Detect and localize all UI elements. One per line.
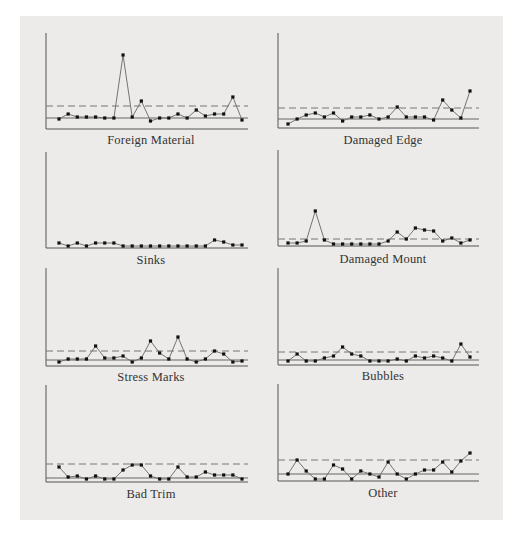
data-point bbox=[94, 474, 97, 477]
data-point bbox=[121, 468, 124, 471]
data-point bbox=[314, 111, 317, 114]
data-point bbox=[204, 357, 207, 360]
data-point bbox=[341, 467, 344, 470]
data-point bbox=[387, 460, 390, 463]
data-point bbox=[94, 344, 97, 347]
data-point bbox=[377, 117, 380, 120]
data-point bbox=[204, 244, 207, 247]
data-point bbox=[468, 355, 471, 358]
data-point bbox=[296, 352, 299, 355]
data-point bbox=[423, 468, 426, 471]
data-point bbox=[204, 114, 207, 117]
data-point bbox=[213, 349, 216, 352]
data-point bbox=[441, 356, 444, 359]
data-line bbox=[288, 453, 470, 479]
data-point bbox=[414, 354, 417, 357]
data-point bbox=[450, 359, 453, 362]
data-point bbox=[387, 115, 390, 118]
data-point bbox=[222, 473, 225, 476]
data-point bbox=[459, 116, 462, 119]
data-point bbox=[396, 105, 399, 108]
data-point bbox=[140, 99, 143, 102]
data-point bbox=[305, 239, 308, 242]
data-point bbox=[359, 469, 362, 472]
data-point bbox=[332, 111, 335, 114]
data-point bbox=[423, 228, 426, 231]
data-point bbox=[450, 236, 453, 239]
data-point bbox=[305, 469, 308, 472]
data-point bbox=[131, 244, 134, 247]
data-point bbox=[314, 359, 317, 362]
data-point bbox=[85, 357, 88, 360]
data-point bbox=[296, 117, 299, 120]
chart-title-foreign-material: Foreign Material bbox=[51, 133, 251, 148]
data-point bbox=[76, 241, 79, 244]
data-point bbox=[121, 354, 124, 357]
data-point bbox=[176, 244, 179, 247]
data-point bbox=[350, 477, 353, 480]
data-point bbox=[332, 242, 335, 245]
data-point bbox=[240, 359, 243, 362]
data-point bbox=[57, 117, 60, 120]
data-point bbox=[231, 95, 234, 98]
data-point bbox=[396, 357, 399, 360]
chart-title-bad-trim: Bad Trim bbox=[51, 487, 251, 502]
data-point bbox=[305, 359, 308, 362]
data-point bbox=[405, 237, 408, 240]
chart-stress-marks bbox=[46, 268, 248, 366]
data-point bbox=[195, 244, 198, 247]
data-point bbox=[186, 357, 189, 360]
data-point bbox=[414, 115, 417, 118]
data-point bbox=[158, 244, 161, 247]
data-point bbox=[76, 357, 79, 360]
chart-title-sinks: Sinks bbox=[51, 253, 251, 268]
chart-other bbox=[278, 384, 479, 481]
data-point bbox=[432, 468, 435, 471]
data-point bbox=[350, 352, 353, 355]
control-charts-grid bbox=[0, 0, 523, 538]
data-point bbox=[286, 472, 289, 475]
data-point bbox=[149, 244, 152, 247]
data-point bbox=[450, 470, 453, 473]
data-point bbox=[231, 360, 234, 363]
data-point bbox=[186, 116, 189, 119]
data-point bbox=[240, 243, 243, 246]
data-point bbox=[441, 460, 444, 463]
data-point bbox=[405, 477, 408, 480]
data-point bbox=[368, 242, 371, 245]
data-point bbox=[459, 459, 462, 462]
data-point bbox=[368, 472, 371, 475]
data-point bbox=[67, 244, 70, 247]
data-point bbox=[131, 463, 134, 466]
data-point bbox=[240, 118, 243, 121]
data-point bbox=[121, 244, 124, 247]
data-point bbox=[112, 116, 115, 119]
chart-bubbles bbox=[278, 268, 479, 365]
data-point bbox=[314, 477, 317, 480]
data-point bbox=[67, 357, 70, 360]
data-point bbox=[341, 345, 344, 348]
data-point bbox=[377, 242, 380, 245]
data-point bbox=[323, 477, 326, 480]
data-point bbox=[67, 475, 70, 478]
data-point bbox=[57, 241, 60, 244]
data-point bbox=[131, 115, 134, 118]
data-point bbox=[76, 115, 79, 118]
data-point bbox=[176, 112, 179, 115]
data-point bbox=[459, 342, 462, 345]
data-point bbox=[231, 473, 234, 476]
data-point bbox=[158, 351, 161, 354]
data-point bbox=[432, 118, 435, 121]
data-point bbox=[314, 209, 317, 212]
chart-title-bubbles: Bubbles bbox=[283, 369, 483, 384]
data-point bbox=[377, 475, 380, 478]
data-point bbox=[176, 465, 179, 468]
data-point bbox=[167, 116, 170, 119]
data-point bbox=[112, 477, 115, 480]
data-point bbox=[103, 241, 106, 244]
data-point bbox=[158, 477, 161, 480]
data-point bbox=[112, 241, 115, 244]
data-point bbox=[140, 463, 143, 466]
data-point bbox=[85, 115, 88, 118]
data-point bbox=[305, 113, 308, 116]
